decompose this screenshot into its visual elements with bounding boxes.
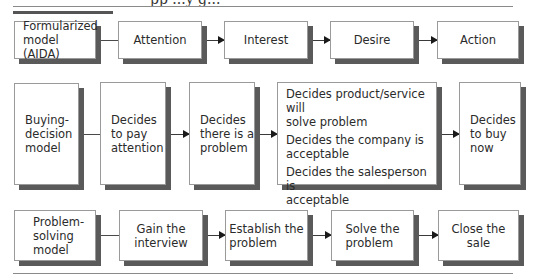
step-label: Decides to pay attention [111, 113, 163, 155]
arrow-icon [313, 40, 330, 41]
bottom-rule [13, 273, 513, 274]
step-label: Attention [133, 33, 186, 47]
step-decides-to-pay-attention: Decides to pay attention [100, 82, 166, 185]
step-label: Desire [354, 33, 391, 47]
connector-line [101, 235, 119, 236]
step-close-the-sale: Close the sale [438, 210, 519, 261]
connector-line [101, 40, 118, 41]
step-desire: Desire [330, 21, 414, 59]
row-label: Formularized model (AIDA) [23, 19, 98, 61]
step-label: Decides to buy now [470, 113, 516, 155]
step-label: Decides there is a problem [200, 113, 254, 155]
step-label: Action [460, 33, 496, 47]
top-accent-rule [13, 11, 113, 14]
arrow-icon [207, 40, 224, 41]
formularized-model-label-box: Formularized model (AIDA) [14, 21, 96, 59]
step-sub-label: Decides the salesperson is acceptable [286, 165, 430, 207]
step-decides-acceptability: Decides product/service will solve probl… [277, 82, 437, 185]
arrow-icon [260, 134, 277, 135]
connector-line [84, 134, 100, 135]
arrow-icon [419, 40, 437, 41]
step-attention: Attention [118, 21, 202, 59]
step-establish-the-problem: Establish the problem [225, 210, 308, 261]
step-label: Close the sale [439, 222, 518, 250]
row-label: Problem- solving model [33, 215, 84, 257]
arrow-icon [442, 134, 459, 135]
step-gain-the-interview: Gain the interview [119, 210, 203, 261]
row-label: Buying- decision model [25, 113, 72, 155]
step-label: Establish the problem [229, 222, 303, 250]
step-label: Gain the interview [134, 222, 187, 250]
arrow-icon [419, 235, 438, 236]
step-decides-to-buy-now: Decides to buy now [459, 82, 521, 185]
buying-decision-model-label-box: Buying- decision model [14, 83, 79, 185]
step-sub-label: Decides the company is acceptable [286, 133, 430, 161]
arrow-icon [171, 134, 189, 135]
step-sub-label: Decides product/service will solve probl… [286, 87, 430, 129]
step-action: Action [437, 21, 519, 59]
step-solve-the-problem: Solve the problem [331, 210, 414, 261]
step-label: Solve the problem [346, 222, 400, 250]
step-label: Interest [244, 33, 288, 47]
problem-solving-model-label-box: Problem- solving model [14, 210, 96, 261]
step-interest: Interest [224, 21, 308, 59]
top-rule [13, 6, 513, 7]
arrow-icon [313, 235, 331, 236]
arrow-icon [208, 235, 225, 236]
step-decides-there-is-a-problem: Decides there is a problem [189, 82, 255, 185]
